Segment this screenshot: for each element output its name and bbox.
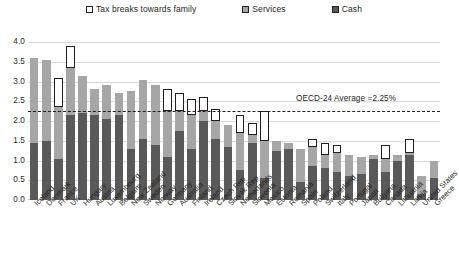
y-axis-tick-label: 1.0 (13, 157, 25, 165)
bar-segment-services (236, 133, 245, 171)
y-axis-tick-label: 1.5 (13, 137, 25, 145)
bar-segment-services (430, 161, 439, 179)
bar-segment-services (102, 85, 111, 119)
bar-group[interactable] (78, 76, 87, 200)
y-axis-tick-label: 3.5 (13, 58, 25, 66)
bar-group[interactable] (30, 58, 39, 200)
y-axis-tick-label: 2.5 (13, 97, 25, 105)
y-axis-tick-label: 2.0 (13, 117, 25, 125)
services-swatch-icon (242, 6, 249, 13)
bar-segment-tax-breaks-towards-family (236, 115, 245, 133)
tax-breaks-swatch-icon (86, 6, 93, 13)
bar-segment-services (163, 111, 172, 156)
bar-segment-cash (30, 143, 39, 200)
legend-label-tax-breaks: Tax breaks towards family (96, 5, 196, 14)
bar-segment-tax-breaks-towards-family (248, 123, 257, 135)
bar-segment-services (127, 91, 136, 148)
bar-segment-services (321, 155, 330, 169)
bar-segment-tax-breaks-towards-family (175, 93, 184, 111)
bar-segment-services (272, 141, 281, 151)
bar-segment-tax-breaks-towards-family (381, 145, 390, 159)
bar-group[interactable] (42, 60, 51, 200)
bar-segment-services (139, 80, 148, 139)
legend-label-cash: Cash (342, 5, 362, 14)
bar-segment-services (357, 157, 366, 175)
bar-segment-tax-breaks-towards-family (199, 97, 208, 111)
bar-segment-services (42, 60, 51, 141)
average-reference-line (28, 111, 440, 112)
bar-segment-tax-breaks-towards-family (260, 111, 269, 141)
bar-group[interactable] (54, 78, 63, 200)
y-axis-tick-label: 4.0 (13, 38, 25, 46)
bar-segment-tax-breaks-towards-family (333, 145, 342, 153)
average-annotation-label: OECD-24 Average =2.25% (296, 94, 396, 103)
bar-segment-services (248, 135, 257, 143)
bar-segment-services (381, 159, 390, 173)
bar-segment-tax-breaks-towards-family (54, 78, 63, 108)
bar-segment-services (211, 121, 220, 139)
y-axis: 0.00.51.01.52.02.53.03.54.0 (0, 42, 25, 200)
bar-segment-services (187, 115, 196, 149)
chart-legend: Tax breaks towards family Services Cash (0, 5, 448, 14)
legend-item-tax-breaks: Tax breaks towards family (86, 5, 196, 14)
bar-segment-services (175, 111, 184, 131)
bar-segment-services (224, 125, 233, 147)
bar-segment-tax-breaks-towards-family (321, 143, 330, 155)
bar-series (28, 42, 440, 200)
legend-label-services: Services (252, 5, 285, 14)
bar-segment-services (78, 76, 87, 114)
bar-segment-services (333, 153, 342, 173)
plot-area: OECD-24 Average =2.25% (28, 42, 440, 200)
bar-segment-services (30, 58, 39, 143)
bar-segment-tax-breaks-towards-family (163, 89, 172, 111)
bar-segment-services (54, 107, 63, 158)
x-axis-labels: IcelandDenmarkFranceUKHungaryAustriaLuxe… (28, 202, 440, 263)
legend-item-cash: Cash (332, 5, 362, 14)
bar-segment-cash (78, 113, 87, 200)
bar-segment-services (199, 111, 208, 121)
bar-segment-tax-breaks-towards-family (187, 99, 196, 115)
bar-segment-services (66, 68, 75, 115)
bar-segment-services (151, 85, 160, 144)
legend-item-services: Services (242, 5, 285, 14)
bar-segment-tax-breaks-towards-family (66, 46, 75, 68)
y-axis-tick-label: 3.0 (13, 78, 25, 86)
bar-segment-tax-breaks-towards-family (308, 139, 317, 147)
y-axis-tick-label: 0.5 (13, 176, 25, 184)
bar-segment-services (308, 147, 317, 167)
bar-segment-tax-breaks-towards-family (405, 139, 414, 153)
cash-swatch-icon (332, 6, 339, 13)
bar-group[interactable] (66, 46, 75, 200)
bar-segment-services (296, 149, 305, 183)
bar-group[interactable] (139, 80, 148, 200)
y-axis-tick-label: 0.0 (13, 196, 25, 204)
